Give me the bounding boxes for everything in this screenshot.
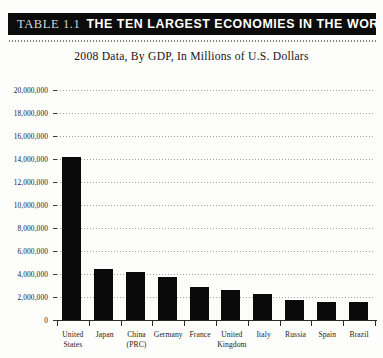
chart-subtitle: 2008 Data, By GDP, In Millions of U.S. D… — [0, 50, 383, 63]
bar — [158, 277, 177, 320]
bar — [253, 294, 272, 320]
x-axis-tick-label-line: Brazil — [338, 330, 380, 340]
x-axis-tick-label-line: States — [52, 340, 94, 350]
gridline — [57, 251, 375, 252]
bar — [349, 302, 368, 320]
y-axis-tick-label: 16,000,000 — [0, 132, 48, 141]
gridline — [57, 113, 375, 114]
y-axis-tick-mark — [53, 182, 57, 183]
x-axis-tick-mark — [89, 321, 90, 326]
figure-table-1-1: TABLE 1.1 THE TEN LARGEST ECONOMIES IN T… — [0, 0, 383, 358]
y-axis-tick-label: 20,000,000 — [0, 86, 48, 95]
bar — [190, 287, 209, 320]
y-axis-tick-label: 10,000,000 — [0, 201, 48, 210]
title-banner: TABLE 1.1 THE TEN LARGEST ECONOMIES IN T… — [8, 13, 376, 35]
y-axis-tick-mark — [53, 205, 57, 206]
y-axis-tick-mark — [53, 136, 57, 137]
plot-area — [57, 90, 375, 320]
x-axis-tick-label: Brazil — [338, 330, 380, 340]
y-axis-tick-label: 18,000,000 — [0, 109, 48, 118]
dotted-divider — [8, 40, 376, 42]
x-axis-tick-mark — [280, 321, 281, 326]
y-axis-tick-label: 0 — [0, 316, 48, 325]
y-axis-tick-label: 4,000,000 — [0, 270, 48, 279]
gridline — [57, 136, 375, 137]
y-axis-tick-mark — [53, 113, 57, 114]
gridline — [57, 90, 375, 91]
gridline — [57, 159, 375, 160]
x-axis-tick-mark — [57, 321, 58, 326]
y-axis-tick-label: 6,000,000 — [0, 247, 48, 256]
x-axis-tick-mark — [343, 321, 344, 326]
bar — [126, 272, 145, 320]
x-axis-tick-mark — [375, 321, 376, 326]
x-axis-tick-mark — [248, 321, 249, 326]
y-axis-tick-mark — [53, 251, 57, 252]
bar — [285, 300, 304, 320]
x-axis-tick-label-line: Kingdom — [211, 340, 253, 350]
x-axis-line — [57, 320, 377, 321]
x-axis-tick-mark — [152, 321, 153, 326]
y-axis-tick-label: 2,000,000 — [0, 293, 48, 302]
x-axis-tick-mark — [121, 321, 122, 326]
x-axis-tick-label-line: (PRC) — [116, 340, 158, 350]
y-axis-tick-mark — [53, 274, 57, 275]
bar — [62, 157, 81, 320]
y-axis-tick-label: 14,000,000 — [0, 155, 48, 164]
y-axis-tick-mark — [53, 159, 57, 160]
table-number-label: TABLE 1.1 — [17, 17, 80, 32]
x-axis-tick-mark — [216, 321, 217, 326]
y-axis-tick-mark — [53, 90, 57, 91]
gridline — [57, 182, 375, 183]
bar — [221, 290, 240, 320]
bar — [317, 302, 336, 320]
gridline — [57, 205, 375, 206]
x-axis-tick-mark — [184, 321, 185, 326]
x-axis-tick-mark — [311, 321, 312, 326]
y-axis-tick-label: 8,000,000 — [0, 224, 48, 233]
bar — [94, 269, 113, 320]
page-title: THE TEN LARGEST ECONOMIES IN THE WORLD — [86, 17, 376, 31]
gridline — [57, 228, 375, 229]
y-axis-tick-mark — [53, 228, 57, 229]
y-axis-tick-mark — [53, 297, 57, 298]
y-axis-tick-label: 12,000,000 — [0, 178, 48, 187]
